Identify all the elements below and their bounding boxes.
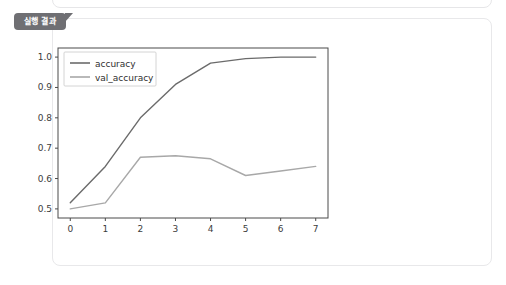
accuracy-chart: 0.50.60.70.80.91.001234567accuracyval_ac…	[0, 30, 360, 245]
x-tick-label: 5	[243, 224, 249, 234]
y-tick-label: 1.0	[38, 52, 53, 62]
x-tick-label: 0	[67, 224, 73, 234]
y-tick-label: 0.6	[38, 174, 53, 184]
y-tick-label: 0.7	[38, 143, 52, 153]
y-tick-label: 0.8	[38, 113, 53, 123]
y-tick-label: 0.5	[38, 204, 52, 214]
tab-pointer-notch	[65, 13, 73, 22]
x-tick-label: 2	[138, 224, 144, 234]
x-tick-label: 4	[208, 224, 214, 234]
x-tick-label: 3	[173, 224, 179, 234]
y-tick-label: 0.9	[38, 82, 53, 92]
x-tick-label: 1	[102, 224, 108, 234]
x-tick-label: 7	[313, 224, 319, 234]
x-tick-label: 6	[278, 224, 284, 234]
legend-label-accuracy: accuracy	[95, 59, 136, 69]
output-panel-previous	[52, 0, 492, 8]
legend-label-val_accuracy: val_accuracy	[95, 73, 154, 83]
tab-execution-result[interactable]: 실행 결과	[14, 13, 73, 30]
accuracy-chart-svg: 0.50.60.70.80.91.001234567accuracyval_ac…	[0, 30, 360, 245]
tab-execution-result-label: 실행 결과	[14, 13, 66, 30]
